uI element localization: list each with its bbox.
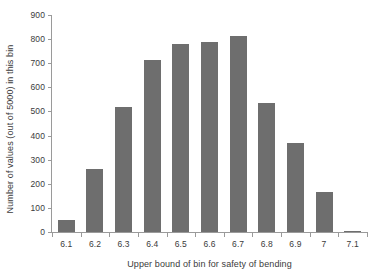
x-axis-tick bbox=[52, 233, 53, 237]
y-axis-tick-label: 300 bbox=[5, 156, 45, 165]
y-axis-tick-label: 200 bbox=[5, 180, 45, 189]
y-axis-tick-label: 700 bbox=[5, 59, 45, 68]
bar bbox=[201, 42, 218, 232]
x-axis-tick bbox=[224, 233, 225, 237]
y-axis-tick-label: 900 bbox=[5, 11, 45, 20]
bar bbox=[344, 231, 361, 232]
y-axis-tick-label: 600 bbox=[5, 83, 45, 92]
bar bbox=[144, 60, 161, 232]
x-axis-tick bbox=[338, 233, 339, 237]
x-axis-tick bbox=[81, 233, 82, 237]
x-axis-title: Upper bound of bin for safety of bending bbox=[52, 259, 367, 269]
bar bbox=[316, 192, 333, 233]
x-axis-line bbox=[51, 232, 368, 233]
x-axis-tick bbox=[367, 233, 368, 237]
y-axis-tick-label: 100 bbox=[5, 204, 45, 213]
x-axis-tick bbox=[281, 233, 282, 237]
x-axis-tick bbox=[109, 233, 110, 237]
plot-area bbox=[52, 15, 367, 232]
x-axis-tick bbox=[252, 233, 253, 237]
x-axis-tick-label: 7.1 bbox=[333, 240, 373, 249]
x-axis-tick bbox=[138, 233, 139, 237]
bar bbox=[258, 103, 275, 232]
y-axis-tick-label: 0 bbox=[5, 228, 45, 237]
x-axis-tick bbox=[167, 233, 168, 237]
x-axis-tick bbox=[195, 233, 196, 237]
histogram-chart: Number of values (out of 5000) in this b… bbox=[0, 0, 373, 280]
bar bbox=[86, 169, 103, 232]
bar bbox=[172, 44, 189, 232]
bar bbox=[115, 107, 132, 232]
bar bbox=[230, 36, 247, 233]
bar bbox=[287, 143, 304, 232]
y-axis-tick-label: 400 bbox=[5, 132, 45, 141]
y-axis-tick-label: 500 bbox=[5, 107, 45, 116]
x-axis-tick bbox=[310, 233, 311, 237]
bar bbox=[58, 220, 75, 232]
y-axis-tick-label: 800 bbox=[5, 35, 45, 44]
